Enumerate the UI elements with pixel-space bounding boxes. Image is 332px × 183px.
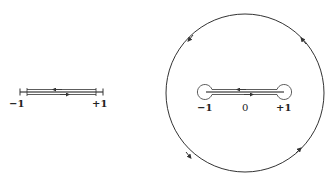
label-plus-one: +1 [92,98,107,109]
label-zero: 0 [242,102,248,113]
arrow-icon-bottom-left [186,152,190,157]
contour-figure: −1 +1 −1 0 +1 [0,0,332,183]
label-plus-one: +1 [276,102,291,113]
label-minus-one: −1 [197,102,212,113]
label-minus-one: −1 [9,98,24,109]
right-diagram: −1 0 +1 [166,14,324,172]
arrow-icon-bottom-right [296,149,300,153]
left-diagram: −1 +1 [9,88,107,109]
